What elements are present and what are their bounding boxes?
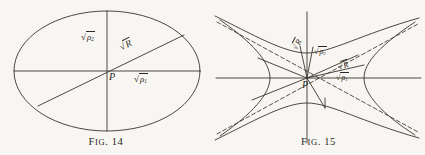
radicand: ρ1: [139, 73, 148, 84]
figure-14: P √ρ2 √R √ρ1 FIG. 14: [0, 0, 212, 155]
figure-plate: P √ρ2 √R √ρ1 FIG. 14: [0, 0, 425, 155]
caption-ig: IG: [308, 137, 318, 147]
label-sqrt-rho-1: √ρ1: [134, 73, 148, 84]
hyperbola-branch-lower: [215, 103, 419, 140]
caption-number: 15: [324, 136, 336, 147]
caption-ig: IG: [95, 137, 105, 147]
figure-15-caption: FIG. 15: [212, 136, 425, 147]
radicand: ρ1: [340, 72, 348, 83]
figure-14-drawing: [0, 0, 212, 155]
radicand: ρ2: [318, 46, 326, 57]
chord-1: [300, 46, 307, 78]
chord-3: [307, 55, 358, 78]
figure-14-caption: FIG. 14: [0, 136, 212, 147]
label-sqrt-rho-2: √ρ2: [314, 46, 327, 57]
figure-15-drawing: [212, 0, 425, 155]
figure-15: P √R √ρ2 √R √ρ1 FIG. 15: [212, 0, 425, 155]
caption-dot: .: [318, 136, 321, 147]
caption-number: 14: [112, 136, 124, 147]
label-sqrt-rho-2: √ρ2: [81, 31, 95, 42]
caption-dot: .: [105, 136, 108, 147]
center-point-label-p: P: [302, 80, 308, 90]
radicand: ρ2: [86, 31, 95, 42]
label-sqrt-rho-1: √ρ1: [336, 72, 349, 83]
chord-5: [258, 58, 307, 78]
hyperbola-branch-right: [364, 22, 415, 135]
center-point-label-p: P: [109, 72, 115, 82]
asymptote-2: [217, 24, 418, 134]
